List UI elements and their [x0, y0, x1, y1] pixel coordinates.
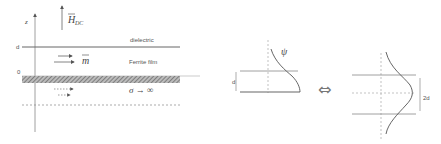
conductor-label: σ → ∞ — [129, 85, 153, 95]
level-d-label: d — [16, 44, 19, 50]
equivalence-icon: ⇔ — [318, 80, 331, 99]
magnetization-label: m — [82, 55, 89, 66]
ferrite-film-label: Ferrite film — [129, 59, 157, 65]
thickness-label: d — [232, 79, 235, 85]
thickness-label: 2d — [423, 95, 430, 101]
middle-panel: ψ d — [232, 40, 300, 93]
diagram-canvas: z H DC d 0 dielectric Ferrite film m σ →… — [0, 0, 441, 144]
conductor-layer — [22, 76, 180, 83]
dielectric-label: dielectric — [130, 37, 154, 43]
wave-label: ψ — [281, 46, 288, 57]
field-subscript: DC — [74, 20, 84, 26]
axis-label: z — [24, 18, 28, 26]
level-0-label: 0 — [17, 69, 21, 75]
right-panel: 2d — [352, 52, 430, 140]
left-panel: z H DC d 0 dielectric Ferrite film m σ →… — [16, 6, 200, 132]
